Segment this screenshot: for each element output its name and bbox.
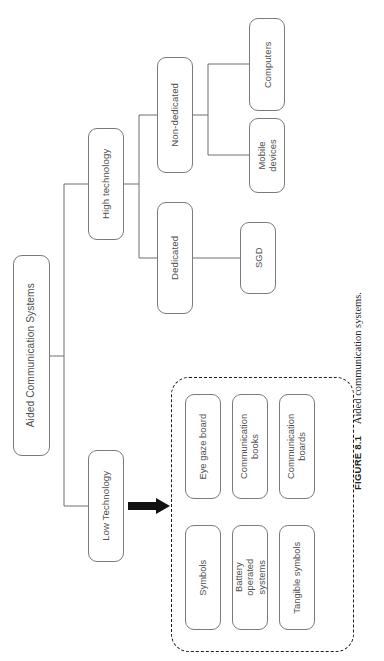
node-computers[interactable]: Computers (249, 18, 285, 111)
node-label: SGD (252, 248, 263, 269)
node-communication-books[interactable]: Communication books (232, 394, 268, 499)
node-label: Dedicated (169, 236, 181, 280)
node-label: Computers (261, 41, 272, 88)
node-battery-operated-systems[interactable]: Battery operated systems (232, 525, 268, 630)
node-symbols[interactable]: Symbols (185, 525, 221, 630)
node-label: Battery operated systems (233, 559, 267, 596)
node-label: High technology (100, 149, 112, 219)
node-label: Mobile devices (256, 139, 279, 173)
node-label: Symbols (197, 560, 208, 596)
node-communication-boards[interactable]: Communication boards (279, 394, 315, 499)
node-aided-communication-systems[interactable]: Aided Communication Systems (13, 255, 50, 456)
node-label: Non-dedicated (169, 83, 181, 147)
node-label: Communication boards (286, 414, 309, 479)
node-low-technology[interactable]: Low Technology (88, 450, 124, 562)
node-tangible-symbols[interactable]: Tangible symbols (279, 525, 315, 630)
node-label: Tangible symbols (291, 542, 302, 614)
node-sgd[interactable]: SGD (240, 222, 276, 294)
node-label: Aided Communication Systems (25, 283, 37, 427)
node-non-dedicated[interactable]: Non-dedicated (157, 57, 193, 173)
node-eye-gaze-board[interactable]: Eye gaze board (185, 394, 221, 499)
node-label: Eye gaze board (197, 414, 208, 480)
node-mobile-devices[interactable]: Mobile devices (249, 118, 285, 193)
node-label: Communication books (239, 414, 262, 479)
low-tech-arrow (128, 498, 170, 514)
figure-caption: FIGURE 8.1 Aided communication systems. (352, 292, 363, 490)
figure-number: FIGURE 8.1 (352, 436, 363, 490)
node-high-technology[interactable]: High technology (88, 128, 124, 240)
figure-caption-text: Aided communication systems. (352, 292, 363, 424)
node-label: Low Technology (100, 471, 112, 541)
node-dedicated[interactable]: Dedicated (157, 202, 193, 314)
